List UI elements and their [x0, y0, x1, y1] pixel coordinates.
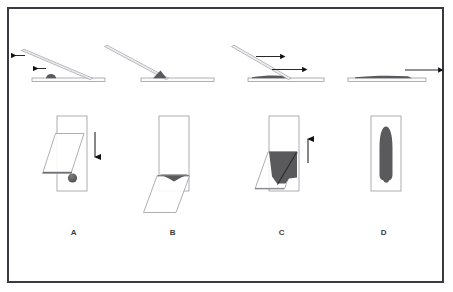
panel-a-top-view	[43, 116, 96, 191]
panel-b-spreader-slide-top	[144, 176, 190, 213]
figure-canvas	[0, 0, 453, 292]
panel-d-top-view	[371, 116, 401, 191]
panel-d-finished-smear	[380, 127, 393, 183]
panel-a-base-slide	[32, 78, 105, 81]
panel-a-blood-drop-side	[46, 74, 56, 78]
panel-d-side-view	[348, 70, 439, 82]
panel-d-base-slide	[348, 78, 426, 82]
panel-a-blood-drop-top	[68, 173, 77, 182]
panel-c-base-slide	[248, 78, 324, 81]
panel-label-c: C	[272, 228, 292, 237]
panel-b-side-view	[105, 45, 215, 81]
panel-c-spreader-slide	[232, 45, 292, 79]
panel-c-side-view	[232, 45, 325, 81]
panel-b-top-view	[144, 116, 190, 213]
panel-label-d: D	[374, 228, 394, 237]
panel-d-blood-film-side	[355, 76, 412, 79]
panel-c-top-view	[255, 116, 308, 191]
panel-label-a: A	[64, 228, 84, 237]
figure-root: A B C D	[0, 0, 453, 292]
panel-a-side-view	[11, 49, 105, 81]
panel-a-spreader-slide	[22, 49, 93, 79]
panel-b-base-slide	[141, 78, 214, 81]
panel-label-b: B	[163, 228, 183, 237]
